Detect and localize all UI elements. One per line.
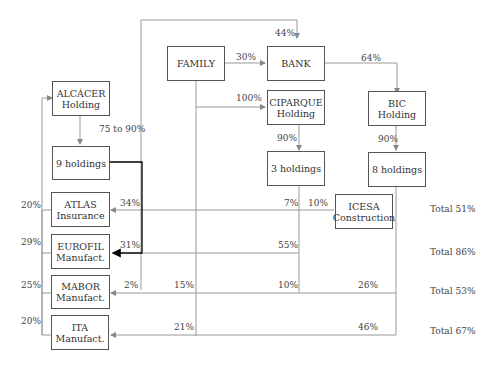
atlas-node: ATLASInsurance — [51, 192, 110, 227]
eurofil-node: EUROFILManufact. — [51, 234, 110, 269]
edge-atlas-10: 10% — [308, 198, 328, 208]
nine-holdings-node: 9 holdings — [52, 146, 110, 180]
atlas-line2: Insurance — [56, 210, 104, 221]
alcacer-line1: ALCÁCER — [57, 88, 106, 99]
edge-alcacer-nine: 75 to 90% — [99, 124, 145, 134]
icesa-node: ICESAConstruction — [335, 194, 393, 229]
eight-holdings-label: 8 holdings — [372, 164, 422, 175]
edge-atlas-34: 34% — [120, 198, 140, 208]
bic-line1: BIC — [388, 98, 406, 109]
alcacer-node: ALCÁCERHolding — [52, 81, 110, 116]
bic-line2: Holding — [378, 109, 416, 120]
edge-family-bank: 30% — [236, 52, 256, 62]
ita-node: ITAManufact. — [51, 315, 109, 350]
edge-ciparque-three: 90% — [277, 133, 297, 143]
icesa-line2: Construction — [333, 212, 395, 223]
ciparque-line2: Holding — [277, 108, 315, 119]
bank-node: BANK — [267, 46, 325, 81]
mabor-line2: Manufact. — [56, 292, 105, 303]
left-eurofil-29: 29% — [21, 237, 41, 247]
eurofil-line2: Manufact. — [56, 252, 105, 263]
edge-mabor-10: 10% — [278, 280, 298, 290]
bic-node: BICHolding — [368, 91, 426, 126]
ciparque-line1: CIPARQUE — [269, 97, 322, 108]
edge-family-ciparque: 100% — [236, 93, 262, 103]
family-node: FAMILY — [167, 46, 225, 81]
total-mabor: Total 53% — [430, 286, 475, 296]
edge-mabor-26: 26% — [358, 280, 378, 290]
total-eurofil: Total 86% — [430, 247, 475, 257]
mabor-line1: MABOR — [61, 281, 100, 292]
three-holdings-node: 3 holdings — [267, 151, 325, 186]
nine-holdings-label: 9 holdings — [56, 158, 106, 169]
edge-eurofil-55: 55% — [278, 240, 298, 250]
ita-line1: ITA — [72, 322, 88, 333]
left-atlas-20: 20% — [21, 200, 41, 210]
ita-line2: Manufact. — [56, 333, 105, 344]
family-label: FAMILY — [177, 58, 215, 69]
edge-mabor-15: 15% — [174, 280, 194, 290]
edge-ita-46: 46% — [358, 322, 378, 332]
total-ita: Total 67% — [430, 326, 475, 336]
eight-holdings-node: 8 holdings — [368, 152, 426, 187]
ciparque-node: CIPARQUEHolding — [267, 90, 325, 125]
atlas-line1: ATLAS — [64, 199, 96, 210]
left-ita-20: 20% — [21, 316, 41, 326]
icesa-line1: ICESA — [348, 201, 379, 212]
edge-eurofil-31: 31% — [120, 240, 140, 250]
bank-label: BANK — [281, 58, 310, 69]
edge-top-bank: 44% — [275, 28, 295, 38]
edge-mabor-2: 2% — [124, 280, 138, 290]
three-holdings-label: 3 holdings — [271, 163, 321, 174]
eurofil-line1: EUROFIL — [57, 241, 104, 252]
mabor-node: MABORManufact. — [51, 275, 110, 309]
total-atlas: Total 51% — [430, 204, 475, 214]
alcacer-line2: Holding — [62, 99, 100, 110]
left-mabor-25: 25% — [21, 280, 41, 290]
edge-ita-21: 21% — [174, 322, 194, 332]
edge-bic-eight: 90% — [378, 134, 398, 144]
edge-atlas-7: 7% — [284, 198, 298, 208]
edge-bank-bic: 64% — [361, 53, 381, 63]
